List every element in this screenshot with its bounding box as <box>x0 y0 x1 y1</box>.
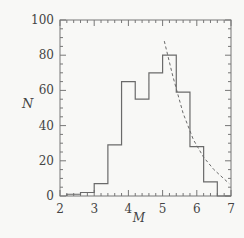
histogram-chart: 234567020406080100 N M <box>0 0 244 238</box>
x-tick-label: 4 <box>125 202 133 216</box>
x-axis-label: M <box>132 211 146 225</box>
x-tick-label: 6 <box>193 202 201 216</box>
fit-curve-dashed <box>164 41 229 184</box>
x-tick-label: 7 <box>227 202 235 216</box>
x-tick-label: 2 <box>56 202 64 216</box>
x-tick-label: 5 <box>159 202 167 216</box>
y-tick-label: 60 <box>39 83 54 97</box>
tick-labels: 234567020406080100 <box>31 13 235 216</box>
y-axis-label: N <box>21 96 34 111</box>
axis-ticks <box>60 20 231 196</box>
y-tick-label: 20 <box>39 154 54 168</box>
y-tick-label: 40 <box>39 119 54 133</box>
x-tick-label: 3 <box>90 202 98 216</box>
histogram-steps <box>67 55 231 196</box>
plot-frame <box>60 20 231 196</box>
y-tick-label: 80 <box>39 48 54 62</box>
y-tick-label: 100 <box>31 13 54 27</box>
y-tick-label: 0 <box>46 189 54 203</box>
